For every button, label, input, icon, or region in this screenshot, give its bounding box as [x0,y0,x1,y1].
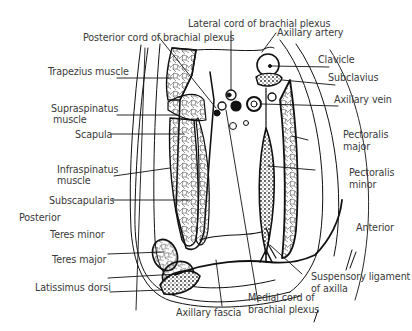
label-posterior: Posterior [19,212,61,224]
label-pectoralis-major: Pectoralis [343,129,388,141]
axilla-diagram: Lateral cord of brachial plexus Posterio… [0,0,412,331]
label-teres-major: Teres major [52,254,106,266]
label-infraspinatus-2: muscle [57,175,91,187]
label-infraspinatus: Infraspinatus [57,164,118,176]
label-axillary-vein: Axillary vein [334,94,392,106]
label-medial-cord-2: brachial plexus [248,304,319,316]
label-pectoralis-minor-2: minor [349,179,376,191]
label-posterior-cord: Posterior cord of brachial plexus [83,32,234,44]
label-anterior: Anterior [356,222,394,234]
label-pectoralis-minor: Pectoralis [349,167,394,179]
label-subscapularis: Subscapularis [49,195,114,207]
label-axillary-artery: Axillary artery [277,27,343,39]
label-medial-cord: Medial cord of [248,292,314,304]
label-axillary-fascia: Axillary fascia [176,307,241,319]
label-teres-minor: Teres minor [50,229,105,241]
label-supraspinatus: Supraspinatus [51,103,118,115]
label-suspensory-ligament-2: of axilla [311,283,348,295]
label-clavicle: Clavicle [318,54,355,66]
label-pectoralis-major-2: major [343,141,370,153]
label-trapezius: Trapezius muscle [48,66,129,78]
label-subclavius: Subclavius [328,72,379,84]
label-scapula: Scapula [75,129,112,141]
label-latissimus-dorsi: Latissimus dorsi [35,282,111,294]
label-supraspinatus-2: muscle [53,114,87,126]
label-suspensory-ligament: Suspensory ligament [311,271,410,283]
